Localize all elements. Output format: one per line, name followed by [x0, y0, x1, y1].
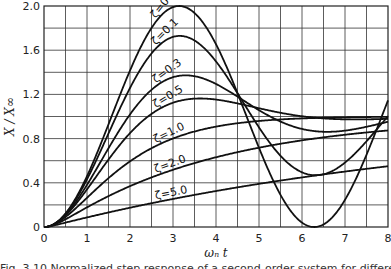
x-tick-label: 3: [170, 232, 177, 245]
y-axis-label: X / X∞: [3, 97, 17, 137]
y-tick-label: 0.8: [23, 133, 41, 146]
x-tick-label: 6: [299, 232, 306, 245]
x-tick-label: 7: [342, 232, 349, 245]
curve-label: ζ=2.0: [152, 152, 187, 175]
curve-label: ζ=1.0: [151, 120, 186, 146]
y-tick-label: 0.4: [23, 177, 41, 190]
curve-label: ζ=0.1: [149, 15, 181, 47]
x-tick-label: 2: [127, 232, 134, 245]
figure-caption: Fig. 3.10 Normalized step response of a …: [0, 262, 391, 269]
x-tick-label: 1: [84, 232, 91, 245]
x-tick-label: 0: [41, 232, 48, 245]
y-tick-label: 2.0: [23, 0, 41, 13]
y-tick-labels: 00.40.81.21.62.0: [23, 0, 41, 234]
x-axis-label: ωₙ t: [204, 246, 227, 260]
x-tick-label: 5: [256, 232, 263, 245]
y-tick-label: 0: [33, 221, 40, 234]
y-tick-label: 1.6: [23, 44, 41, 57]
x-tick-labels: 012345678: [41, 232, 391, 245]
x-tick-label: 4: [213, 232, 220, 245]
grid: [44, 6, 388, 227]
x-tick-label: 8: [385, 232, 391, 245]
y-tick-label: 1.2: [23, 88, 41, 101]
curve-label: ζ=0.3: [150, 56, 184, 86]
step-response-chart: ζ=0ζ=0.1ζ=0.3ζ=0.5ζ=1.0ζ=2.0ζ=5.0 012345…: [0, 0, 391, 269]
